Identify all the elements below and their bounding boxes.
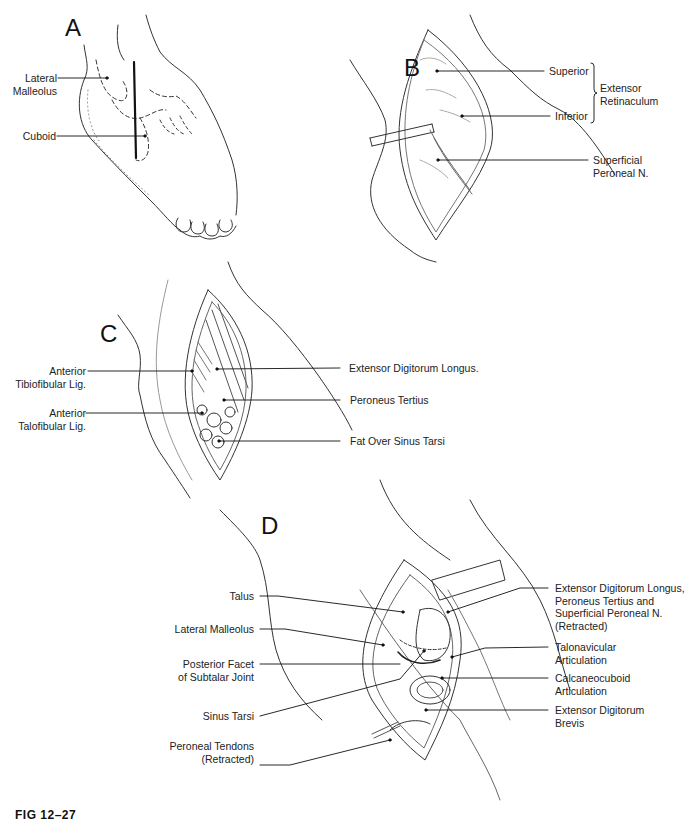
label-extensor-digitorum-longus: Extensor Digitorum Longus. (349, 362, 479, 375)
label-lateral-malleolus-a: Lateral Malleolus (13, 72, 57, 97)
label-line: Extensor Digitorum (555, 704, 644, 717)
label-line: of Subtalar Joint (178, 671, 254, 684)
label-line: Anterior (18, 407, 86, 420)
label-line: Articulation (555, 685, 630, 698)
panel-letter-a: A (65, 16, 81, 40)
label-line: Lateral (13, 72, 57, 85)
label-line: Peroneal N. (593, 167, 648, 180)
panel-a-foot-drawing (79, 15, 237, 239)
label-line: Talofibular Lig. (18, 420, 86, 433)
label-sinus-tarsi: Sinus Tarsi (203, 710, 254, 723)
label-peroneal-tendons: Peroneal Tendons (Retracted) (170, 740, 254, 765)
label-line: (Retracted) (555, 620, 685, 633)
label-line: (Retracted) (170, 753, 254, 766)
label-posterior-facet-subtalar-joint: Posterior Facet of Subtalar Joint (178, 658, 254, 683)
label-anterior-talofibular-lig: Anterior Talofibular Lig. (18, 407, 86, 432)
label-extensor-digitorum-brevis: Extensor Digitorum Brevis (555, 704, 644, 729)
label-line: Calcaneocuboid (555, 672, 630, 685)
label-line: Brevis (555, 717, 644, 730)
label-edl-pt-spn-retracted: Extensor Digitorum Longus, Peroneus Tert… (555, 582, 685, 632)
label-peroneus-tertius: Peroneus Tertius (350, 394, 429, 407)
label-line: Peroneus Tertius and (555, 595, 685, 608)
label-line: Superficial Peroneal N. (555, 607, 685, 620)
label-anterior-tibiofibular-lig: Anterior Tibiofibular Lig. (15, 365, 86, 390)
label-superficial-peroneal-n-b: Superficial Peroneal N. (593, 154, 648, 179)
label-line: Extensor Digitorum Longus, (555, 582, 685, 595)
label-line: Superficial (593, 154, 648, 167)
label-line: Articulation (555, 654, 616, 667)
label-line: Posterior Facet (178, 658, 254, 671)
label-cuboid: Cuboid (23, 130, 56, 143)
label-line: Retinaculum (600, 95, 658, 108)
label-line: Peroneal Tendons (170, 740, 254, 753)
panel-letter-c: C (100, 322, 117, 346)
panel-letter-d: D (261, 514, 278, 538)
label-superior: Superior (549, 65, 589, 78)
label-inferior: Inferior (555, 110, 588, 123)
label-lateral-malleolus-d: Lateral Malleolus (175, 623, 254, 636)
label-talonavicular-articulation: Talonavicular Articulation (555, 641, 616, 666)
label-extensor-retinaculum: Extensor Retinaculum (600, 82, 658, 107)
panel-c-dissection-drawing (118, 262, 352, 498)
panel-b-incision-drawing (350, 15, 615, 262)
anatomical-illustration (0, 0, 695, 822)
leader-lines (57, 63, 597, 765)
label-fat-over-sinus-tarsi: Fat Over Sinus Tarsi (350, 435, 445, 448)
label-talus: Talus (229, 590, 254, 603)
label-line: Tibiofibular Lig. (15, 378, 86, 391)
panel-letter-b: B (404, 56, 420, 80)
label-line: Talonavicular (555, 641, 616, 654)
label-line: Malleolus (13, 85, 57, 98)
label-line: Anterior (15, 365, 86, 378)
label-line: Extensor (600, 82, 658, 95)
label-calcaneocuboid-articulation: Calcaneocuboid Articulation (555, 672, 630, 697)
figure-caption: FIG 12–27 (15, 808, 76, 822)
